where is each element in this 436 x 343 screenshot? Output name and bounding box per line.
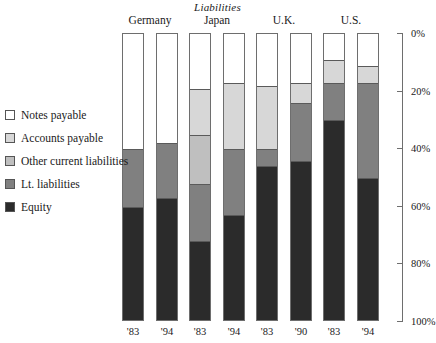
y-axis-tick	[397, 33, 403, 34]
swatch-accounts-payable	[5, 133, 15, 143]
bar-segment	[157, 143, 177, 198]
legend-item-label: Lt. liabilities	[21, 178, 80, 190]
bar-segment	[291, 161, 311, 321]
stacked-bar	[290, 33, 312, 321]
legend-item: Other current liabilities	[5, 149, 128, 172]
y-axis-tick	[397, 263, 403, 264]
group-header-u-s: U.S.	[306, 14, 396, 26]
bar-segment	[358, 34, 378, 66]
stacked-bar	[323, 33, 345, 321]
bar-segment	[358, 178, 378, 321]
bar-segment	[324, 83, 344, 120]
bar-segment	[190, 135, 210, 184]
x-axis-label: '94	[219, 326, 249, 337]
bar-segment	[291, 34, 311, 83]
bar-segment	[157, 34, 177, 143]
bar-segment	[224, 34, 244, 83]
bar-segment	[257, 86, 277, 149]
swatch-notes-payable	[5, 110, 15, 120]
swatch-equity	[5, 202, 15, 212]
bar-segment	[224, 149, 244, 215]
bar-segment	[190, 241, 210, 321]
legend-item: Notes payable	[5, 103, 128, 126]
chart-legend: Notes payableAccounts payableOther curre…	[5, 103, 128, 218]
chart-title: Liabilities	[0, 1, 435, 13]
bar-segment	[123, 207, 143, 321]
y-axis-label: 100%	[411, 316, 436, 327]
bar-segment	[190, 34, 210, 89]
bar-segment	[257, 149, 277, 166]
legend-item: Equity	[5, 195, 128, 218]
stacked-bar	[256, 33, 278, 321]
x-axis-label: '83	[185, 326, 215, 337]
bar-segment	[257, 34, 277, 86]
x-axis-label: '83	[319, 326, 349, 337]
y-axis-label: 80%	[411, 258, 430, 269]
bar-segment	[157, 198, 177, 321]
y-axis-tick	[397, 206, 403, 207]
y-axis-label: 0%	[411, 28, 425, 39]
y-axis-label: 60%	[411, 200, 430, 211]
stacked-bar	[189, 33, 211, 321]
bar-segment	[190, 184, 210, 242]
y-axis-label: 40%	[411, 143, 430, 154]
legend-item: Accounts payable	[5, 126, 128, 149]
swatch-lt-liabilities	[5, 179, 15, 189]
bar-segment	[257, 166, 277, 321]
stacked-bar	[223, 33, 245, 321]
x-axis-label: '83	[252, 326, 282, 337]
x-axis-label: '83	[118, 326, 148, 337]
y-axis-label: 20%	[411, 85, 430, 96]
plot-area	[122, 33, 394, 321]
bar-segment	[224, 215, 244, 321]
bar-segment	[224, 83, 244, 149]
bar-segment	[324, 120, 344, 321]
bar-segment	[324, 34, 344, 60]
legend-item-label: Accounts payable	[21, 132, 103, 144]
y-axis-tick	[397, 148, 403, 149]
y-axis-tick	[397, 91, 403, 92]
legend-item-label: Other current liabilities	[21, 155, 128, 167]
x-axis-label: '94	[353, 326, 383, 337]
bar-segment	[358, 66, 378, 83]
swatch-other-current-liabilities	[5, 156, 15, 166]
stacked-bar	[357, 33, 379, 321]
legend-item-label: Notes payable	[21, 109, 86, 121]
bar-segment	[324, 60, 344, 83]
legend-item-label: Equity	[21, 201, 52, 213]
y-axis	[402, 33, 403, 321]
bar-segment	[190, 89, 210, 135]
legend-item: Lt. liabilities	[5, 172, 128, 195]
x-axis-label: '94	[152, 326, 182, 337]
bar-segment	[291, 103, 311, 161]
y-axis-tick	[397, 321, 403, 322]
bar-segment	[291, 83, 311, 103]
x-axis-label: '90	[286, 326, 316, 337]
bar-segment	[358, 83, 378, 178]
stacked-bar	[156, 33, 178, 321]
